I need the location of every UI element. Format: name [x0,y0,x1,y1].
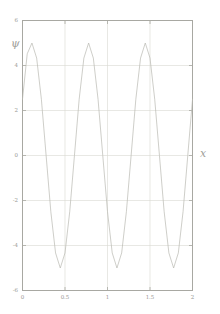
plot-canvas [0,0,220,314]
y-axis-title: ψ [11,38,20,49]
y-tick-label: 4 [2,63,18,69]
y-tick-label: -4 [2,243,18,249]
y-tick-label: 2 [2,108,18,114]
x-axis-title: x [200,148,206,159]
x-tick-label: 0 [13,295,33,301]
y-tick-label: 0 [2,153,18,159]
y-tick-label: 6 [2,18,18,24]
y-tick-label: -2 [2,198,18,204]
x-tick-label: 1 [98,295,118,301]
y-tick-label: -6 [2,288,18,294]
grid-lines [23,21,193,291]
x-tick-label: 1.5 [140,295,160,301]
x-tick-label: 2 [183,295,203,301]
x-tick-label: 0.5 [55,295,75,301]
chart-figure: -6-4-20246 00.511.52 ψ x [0,0,220,314]
